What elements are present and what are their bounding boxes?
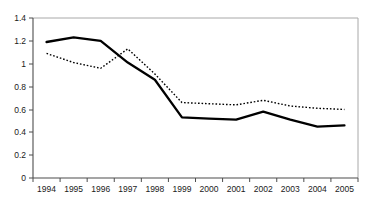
x-tick-label: 2003 [281,184,300,194]
chart-background [0,0,375,205]
y-tick-label: 0.4 [14,127,26,137]
x-tick-label: 1999 [172,184,191,194]
x-tick-label: 1997 [118,184,137,194]
x-tick-label: 2004 [308,184,327,194]
x-tick-label: 2001 [227,184,246,194]
x-tick-label: 1996 [91,184,110,194]
y-tick-label: 0.2 [14,150,26,160]
x-tick-label: 1994 [37,184,56,194]
x-tick-label: 2000 [200,184,219,194]
x-tick-label: 1998 [145,184,164,194]
y-tick-label: 0.6 [14,105,26,115]
y-tick-label: 1.4 [14,13,26,23]
y-tick-label: 0 [21,173,26,183]
y-tick-label: 1.2 [14,36,26,46]
y-tick-label: 0.8 [14,82,26,92]
x-tick-label: 2002 [254,184,273,194]
chart-container: 0 0.2 0.4 0.6 0.8 1 1.2 1.4 199419951996… [0,0,375,205]
y-tick-label: 1 [21,59,26,69]
x-tick-label: 1995 [64,184,83,194]
x-tick-label: 2005 [335,184,354,194]
line-chart: 0 0.2 0.4 0.6 0.8 1 1.2 1.4 199419951996… [0,0,375,205]
